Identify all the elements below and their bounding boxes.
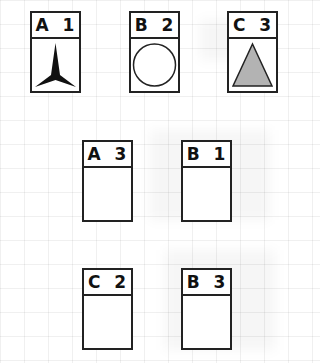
card-label: C 3 (229, 13, 276, 39)
card-c2[interactable]: C 2 (82, 268, 133, 350)
card-b1[interactable]: B 1 (181, 140, 232, 222)
card-body (32, 39, 79, 91)
card-empty-slot[interactable] (183, 296, 230, 348)
card-b3[interactable]: B 3 (181, 268, 232, 350)
card-b2: B 2 (129, 11, 180, 93)
card-c3: C 3 (227, 11, 278, 93)
card-label: A 3 (84, 142, 131, 168)
card-label: B 2 (131, 13, 178, 39)
card-label: B 1 (183, 142, 230, 168)
three-point-star-icon (32, 39, 79, 91)
card-a3[interactable]: A 3 (82, 140, 133, 222)
card-label: B 3 (183, 270, 230, 296)
card-empty-slot[interactable] (84, 296, 131, 348)
circle-icon (131, 39, 178, 91)
card-body (131, 39, 178, 91)
card-label: C 2 (84, 270, 131, 296)
card-label: A 1 (32, 13, 79, 39)
card-body (229, 39, 276, 91)
triangle-icon (229, 39, 276, 91)
card-empty-slot[interactable] (84, 168, 131, 220)
card-empty-slot[interactable] (183, 168, 230, 220)
card-a1: A 1 (30, 11, 81, 93)
